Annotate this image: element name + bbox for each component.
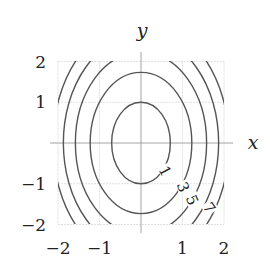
- tick-labels: −2−112−2−112: [21, 52, 229, 259]
- x-axis-label: x: [248, 131, 259, 153]
- y-tick-label: 2: [35, 52, 46, 72]
- y-tick-label: −1: [21, 174, 46, 194]
- y-tick-label: −2: [21, 215, 46, 235]
- y-tick-label: 1: [35, 92, 46, 112]
- x-tick-label: −1: [87, 238, 112, 258]
- contour-plot: 1357 −2−112−2−112 x y: [0, 0, 270, 266]
- y-axis-label: y: [136, 19, 148, 41]
- x-tick-label: 1: [177, 238, 188, 258]
- x-tick-label: −2: [45, 238, 70, 258]
- x-tick-label: 2: [219, 238, 230, 258]
